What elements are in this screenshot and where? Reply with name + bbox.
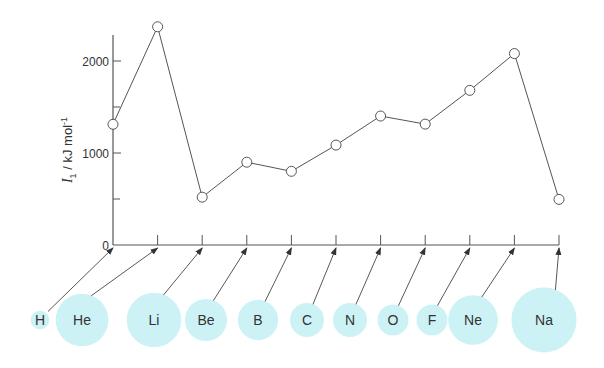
element-label: Be [197,312,214,328]
element-n: N [333,248,381,337]
pointer-arrow [356,248,381,304]
pointer-arrow [91,248,157,296]
y-tick-label: 0 [102,239,109,253]
element-c: C [290,248,336,337]
pointer-arrow [482,248,515,297]
ionization-energy-chart: HHeLiBeBCNOFNeNa010002000I1 / kJ mol-1 [0,0,604,368]
data-point-o [420,119,430,129]
element-b: B [238,248,292,340]
pointer-arrow [555,248,559,290]
axes: 010002000 [82,35,559,253]
element-label: B [253,312,262,328]
pointer-arrow [313,248,336,304]
element-label: H [35,312,45,328]
element-label: O [388,312,399,328]
element-label: N [345,312,355,328]
element-label: C [302,312,312,328]
element-label: Ne [464,312,482,328]
data-line [113,27,559,200]
element-label: Li [149,312,160,328]
data-point-f [465,85,475,95]
data-point-na [554,194,564,204]
y-axis-title: I1 / kJ mol-1 [59,117,78,184]
data-point-ne [509,49,519,59]
pointer-arrow [213,248,246,301]
y-tick-label: 1000 [82,147,109,161]
element-label: F [428,312,437,328]
pointer-arrow [164,248,203,295]
pointer-arrow [398,248,425,306]
element-ne: Ne [448,248,514,345]
data-point-c [331,140,341,150]
y-tick-label: 2000 [82,55,109,69]
element-na: Na [511,248,576,353]
data-point-li [197,192,207,202]
element-label: Na [535,312,553,328]
data-point-n [376,111,386,121]
data-point-he [153,22,163,32]
data-point-be [242,157,252,167]
data-point-h [108,119,118,129]
element-label: He [73,312,91,328]
element-be: Be [185,248,247,341]
data-point-b [286,166,296,176]
pointer-arrow [265,248,291,301]
